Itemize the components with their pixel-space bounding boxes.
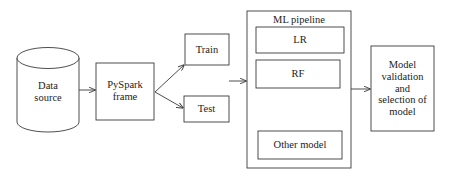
diagram-shapes-layer [0, 0, 450, 180]
diagram-canvas: Data source PySpark frame Train Test ML … [0, 0, 450, 180]
node-data-source [17, 48, 79, 133]
node-pyspark-frame [96, 63, 154, 120]
edge-pyspark-to-train [155, 65, 184, 92]
node-test [184, 96, 229, 122]
edge-pyspark-to-test [155, 92, 183, 108]
node-lr [256, 27, 344, 53]
node-model-validation [371, 46, 434, 131]
node-other-model [258, 131, 342, 159]
node-rf [256, 60, 340, 88]
node-train [185, 34, 229, 65]
